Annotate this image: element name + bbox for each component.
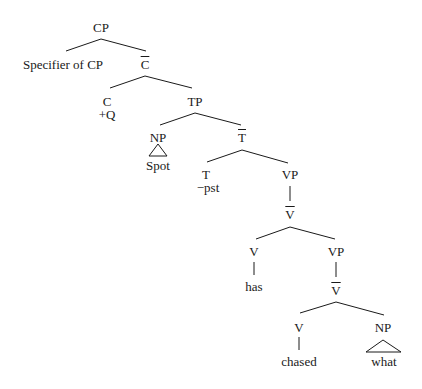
word-has: has — [245, 280, 262, 294]
word-chased: chased — [281, 355, 316, 369]
word-what: what — [371, 355, 396, 369]
node-v-bar-2: V — [331, 284, 340, 298]
feature-minus-pst: −pst — [197, 181, 220, 195]
node-np-subject: NP — [150, 131, 167, 145]
word-spot: Spot — [146, 159, 170, 173]
node-specifier-of-cp: Specifier of CP — [23, 58, 103, 72]
node-vp-1: VP — [282, 168, 299, 182]
node-v-bar-1: V — [285, 208, 294, 222]
node-cp: CP — [93, 21, 109, 35]
node-c-bar: C — [141, 58, 150, 72]
feature-plus-q: +Q — [99, 108, 116, 122]
node-np-object: NP — [375, 321, 392, 335]
node-vp-2: VP — [328, 245, 345, 259]
node-v-2: V — [294, 321, 303, 335]
node-t-bar: T — [238, 131, 246, 145]
node-tp: TP — [187, 95, 202, 109]
node-v-1: V — [249, 245, 258, 259]
